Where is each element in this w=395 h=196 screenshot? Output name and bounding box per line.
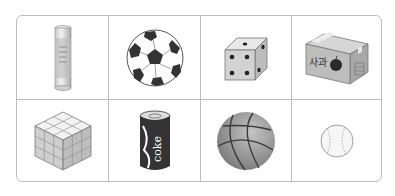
rubiks-cube-icon bbox=[33, 110, 93, 172]
cell-rubiks-cube: rubik's cube bbox=[17, 100, 109, 181]
can-label: coke bbox=[151, 136, 164, 162]
cell-basketball: basketball bbox=[201, 100, 292, 181]
glue-stick-icon bbox=[53, 25, 73, 91]
object-grid: glue stick soccer ball bbox=[16, 15, 382, 182]
cell-glue-stick: glue stick bbox=[17, 16, 109, 100]
cell-coke-can: coke can coke bbox=[109, 100, 201, 181]
basketball-icon bbox=[215, 110, 277, 172]
cell-soccer-ball: soccer ball bbox=[109, 16, 201, 100]
cell-die: die bbox=[201, 16, 292, 100]
soccer-ball-icon bbox=[125, 28, 185, 88]
apple-box-icon: 사과 bbox=[304, 30, 370, 86]
box-label: 사과 bbox=[309, 57, 327, 68]
cell-baseball: baseball bbox=[292, 100, 381, 181]
coke-can-icon: coke bbox=[138, 110, 172, 172]
baseball-icon bbox=[319, 123, 355, 159]
cell-apple-box: apple box 사과 bbox=[292, 16, 381, 100]
die-icon bbox=[223, 34, 269, 82]
